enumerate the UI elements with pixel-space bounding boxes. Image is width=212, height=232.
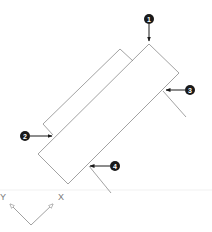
ucs-y-label: Y: [0, 192, 6, 202]
callout-4: 4: [90, 161, 120, 171]
ucs-y-axis: [10, 204, 31, 225]
callout-3-label: 3: [188, 87, 192, 94]
back-rectangle: [43, 49, 133, 135]
callout-2: 2: [20, 131, 52, 141]
front-rectangle[interactable]: [38, 44, 179, 184]
callout-4-label: 4: [113, 163, 117, 170]
ucs-x-axis: [31, 204, 53, 225]
callout-1-label: 1: [147, 16, 151, 23]
callout-2-label: 2: [23, 133, 27, 140]
extension-line-4: [89, 166, 111, 193]
callout-3: 3: [166, 85, 195, 95]
ucs-x-label: X: [58, 192, 64, 202]
ucs-icon: Y X: [0, 192, 64, 225]
callout-1: 1: [144, 14, 154, 41]
extension-line-3: [163, 91, 186, 117]
drawing-canvas: 1 2 3 4 Y X: [0, 0, 212, 232]
